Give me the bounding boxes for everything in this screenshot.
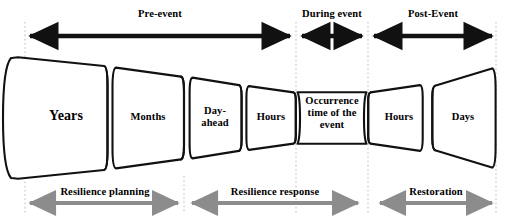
resilience-funnel-figure: Pre-event During event Post-Event Years … [0, 0, 510, 224]
stage-label-resilience-planning: Resilience planning [40, 186, 170, 198]
phase-label-pre-event: Pre-event [100, 8, 220, 20]
segment-label-years: Years [26, 108, 106, 124]
phase-label-during-event: During event [288, 8, 376, 20]
segment-label-hours-pre: Hours [248, 111, 294, 123]
segment-label-day-ahead: Day- ahead [192, 105, 238, 129]
segment-label-months: Months [116, 111, 180, 123]
phase-label-post-event: Post-Event [389, 8, 477, 20]
stage-label-resilience-response: Resilience response [210, 186, 340, 198]
segment-label-hours-post: Hours [376, 111, 422, 123]
stage-label-restoration: Restoration [386, 186, 486, 198]
segment-label-days: Days [438, 111, 488, 123]
segment-label-occurrence: Occurrence time of the event [300, 95, 364, 130]
